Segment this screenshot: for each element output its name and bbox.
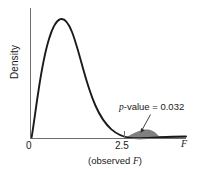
y-axis-label: Density: [10, 32, 20, 92]
p-value-arrow-shaft: [142, 115, 151, 131]
x-tick-label-critical: 2.5: [115, 141, 129, 151]
x-axis-label: F: [181, 139, 187, 149]
p-value-text: -value = 0.032: [124, 101, 184, 112]
observed-note-prefix: (observed: [88, 155, 133, 166]
observed-note-suffix: ): [139, 155, 142, 166]
f-distribution-figure: Density 0 2.5 F (observed F) p-value = 0…: [0, 0, 201, 175]
x-tick-label-zero: 0: [26, 141, 32, 151]
observed-f-note: (observed F): [88, 156, 142, 167]
p-value-annotation: p-value = 0.032: [119, 102, 184, 113]
density-curve: [32, 19, 187, 138]
